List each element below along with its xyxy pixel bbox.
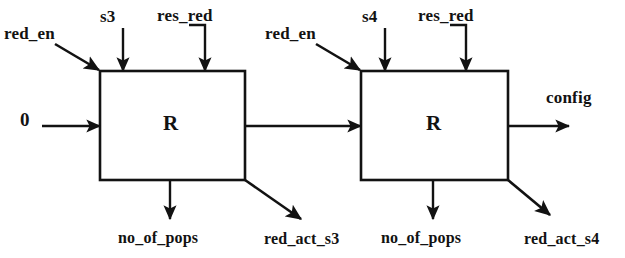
block-r-2-label: R bbox=[426, 113, 441, 134]
label-config: config bbox=[546, 89, 592, 106]
block-r-1-label: R bbox=[163, 113, 178, 134]
label-s3: s3 bbox=[100, 8, 116, 25]
label-red-act-s3: red_act_s3 bbox=[264, 231, 339, 247]
label-red-en-1: red_en bbox=[4, 25, 55, 42]
signal-line-res-red-1 bbox=[189, 25, 205, 71]
signal-line-red-en-2 bbox=[316, 44, 360, 70]
label-red-en-2: red_en bbox=[265, 25, 316, 42]
label-no-of-pops-1: no_of_pops bbox=[118, 230, 198, 246]
signal-line-red-act-s4 bbox=[508, 180, 550, 215]
signal-line-res-red-2 bbox=[450, 25, 466, 71]
label-s4: s4 bbox=[362, 8, 378, 25]
label-input-zero: 0 bbox=[20, 110, 30, 129]
signal-line-red-act-s3 bbox=[245, 180, 301, 219]
label-red-act-s4: red_act_s4 bbox=[524, 231, 599, 247]
label-res-red-1: res_red bbox=[157, 7, 213, 24]
signal-line-red-en-1 bbox=[55, 44, 99, 70]
label-res-red-2: res_red bbox=[418, 7, 474, 24]
block-diagram: red_en s3 res_red 0 R no_of_pops red_act… bbox=[0, 0, 625, 258]
label-no-of-pops-2: no_of_pops bbox=[381, 230, 461, 246]
